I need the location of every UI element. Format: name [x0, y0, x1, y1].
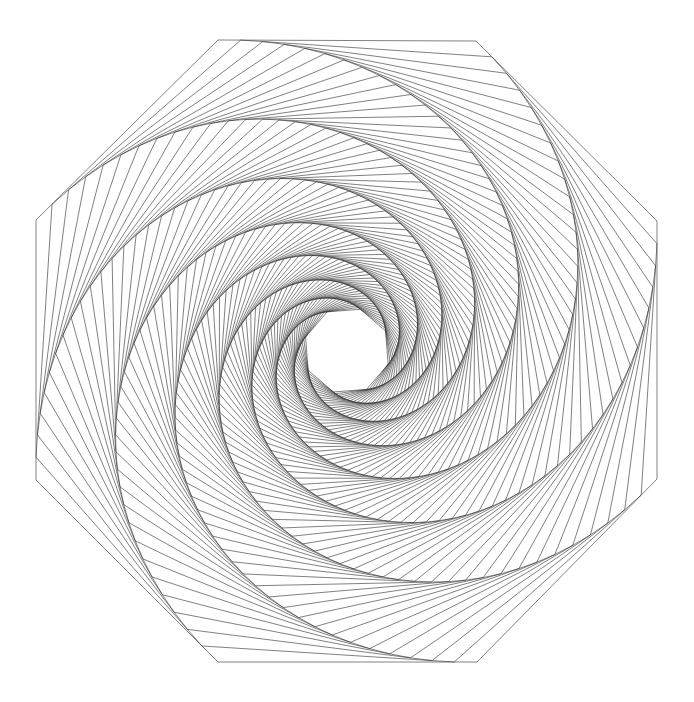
whirl-spiral-canvas: [0, 0, 694, 702]
figure-container: [0, 0, 694, 702]
